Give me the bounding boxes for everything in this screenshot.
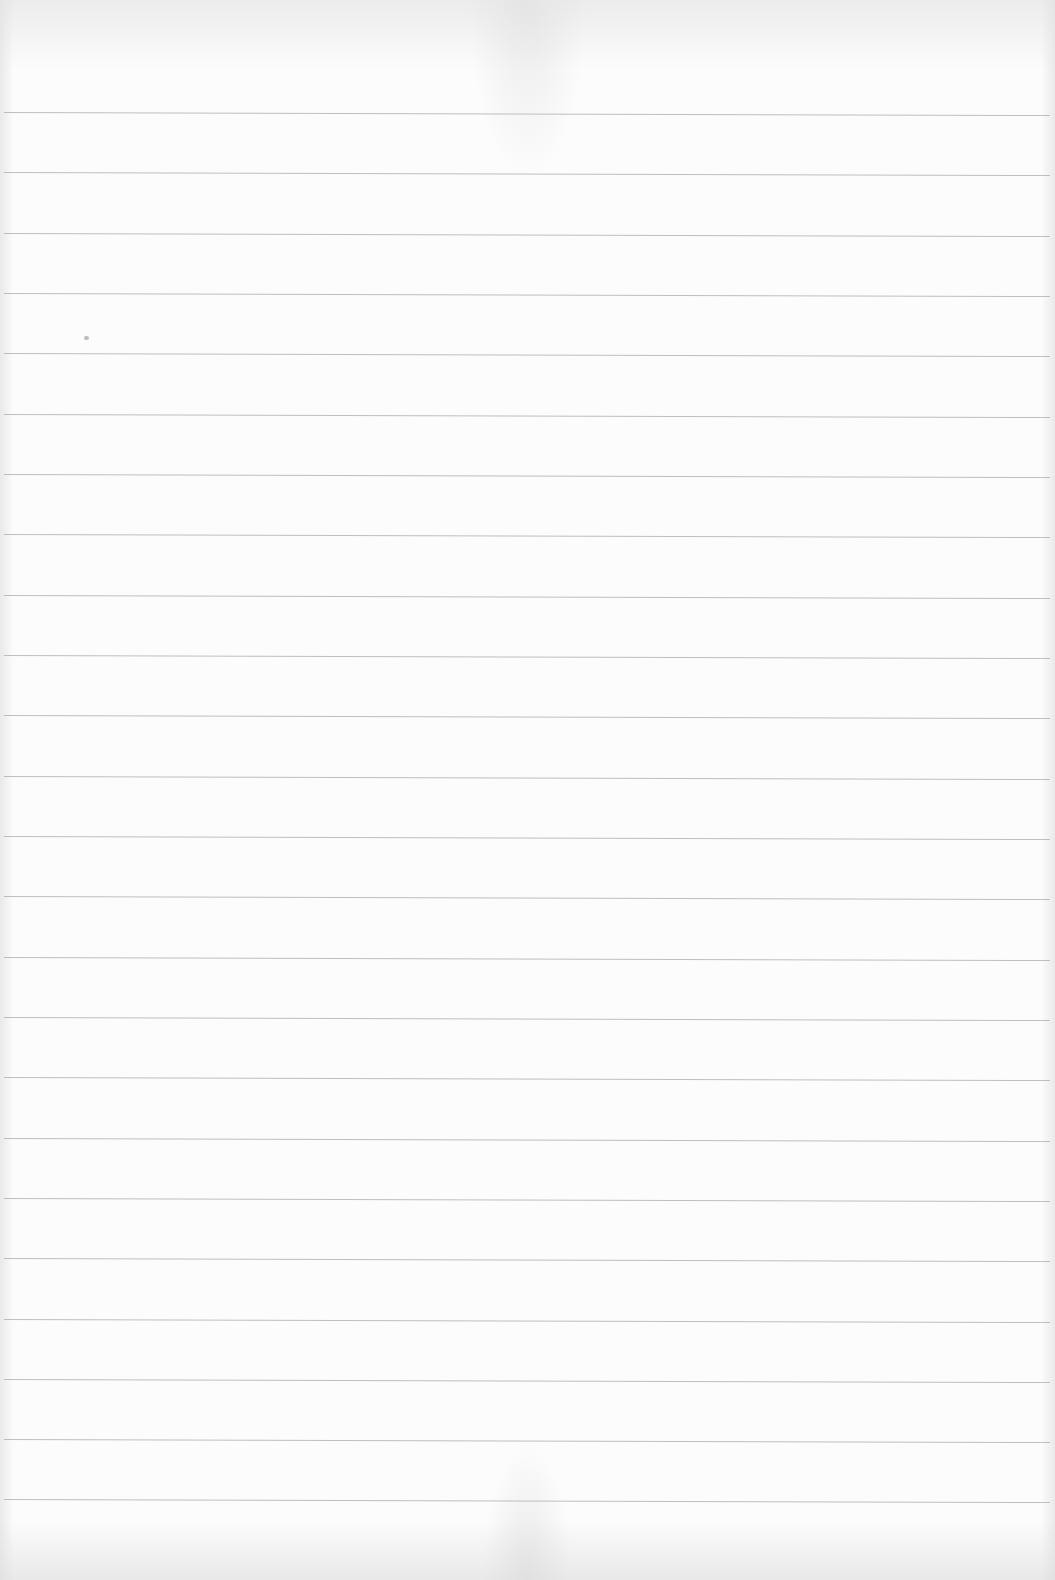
ruled-line [4,1258,1050,1262]
scan-shadow-bottom [0,1520,1055,1580]
ruled-line [4,1017,1050,1021]
ruled-paper-page [0,0,1055,1580]
scan-shadow-top [0,0,1055,70]
ruled-line [4,896,1050,900]
ruled-line [4,1319,1050,1323]
ruled-line [4,715,1050,719]
ruled-line [4,414,1050,418]
ruled-line [4,1499,1050,1503]
ruled-line [4,655,1050,659]
ruled-line [4,293,1050,297]
ruled-line [4,534,1050,538]
ruled-line [4,776,1050,780]
ruled-line [4,957,1050,961]
ruled-line [4,836,1050,840]
paper-speck [84,336,89,340]
ruled-line [4,1077,1050,1081]
ruled-line [4,474,1050,478]
ruled-line [4,112,1050,116]
ruled-line [4,1138,1050,1142]
ruled-line [4,172,1050,176]
ruled-line [4,595,1050,599]
ruled-line [4,1379,1050,1383]
ruled-line [4,353,1050,357]
ruled-line [4,1439,1050,1443]
ruled-line [4,1198,1050,1202]
ruled-line [4,233,1050,237]
